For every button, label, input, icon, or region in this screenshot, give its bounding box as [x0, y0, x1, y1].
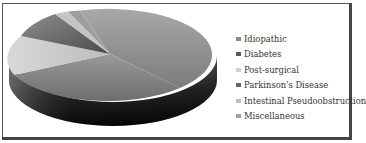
legend-swatch-icon	[236, 99, 241, 103]
legend-item-intestinal-pseudoobstruction: Intestinal Pseudoobstruction	[236, 93, 366, 109]
legend-swatch-icon	[236, 37, 241, 41]
legend-label: Idiopathic	[244, 34, 287, 44]
legend-label: Diabetes	[244, 49, 281, 59]
legend-label: Parkinson's Disease	[244, 80, 328, 90]
legend-item-parkinsons: Parkinson's Disease	[236, 78, 366, 94]
legend-label: Intestinal Pseudoobstruction	[244, 96, 366, 106]
legend-label: Post-surgical	[244, 65, 299, 75]
legend-item-miscellaneous: Miscellaneous	[236, 109, 366, 125]
legend-item-idiopathic: Idiopathic	[236, 31, 366, 47]
legend-swatch-icon	[236, 52, 241, 56]
legend-item-post-surgical: Post-surgical	[236, 62, 366, 78]
legend-swatch-icon	[236, 114, 241, 118]
legend-item-diabetes: Diabetes	[236, 47, 366, 63]
legend-swatch-icon	[236, 83, 241, 87]
legend-label: Miscellaneous	[244, 111, 305, 121]
legend: Idiopathic Diabetes Post-surgical Parkin…	[236, 31, 366, 124]
legend-swatch-icon	[236, 68, 241, 72]
